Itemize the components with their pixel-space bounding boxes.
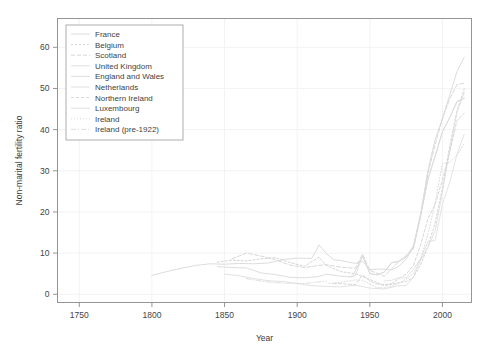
y-tick-label: 30 <box>40 166 50 176</box>
line-chart: 1750180018501900195020000102030405060Yea… <box>0 0 500 356</box>
y-tick-label: 0 <box>45 289 50 299</box>
legend-label-5[interactable]: England and Wales <box>95 72 164 81</box>
y-tick-label: 20 <box>40 207 50 217</box>
x-tick-label: 1750 <box>70 310 89 320</box>
legend-label-8[interactable]: Luxembourg <box>95 104 139 113</box>
y-tick-label: 60 <box>40 42 50 52</box>
x-tick-label: 2000 <box>433 310 452 320</box>
legend-label-10[interactable]: Ireland (pre-1922) <box>95 125 159 134</box>
x-tick-label: 1850 <box>215 310 234 320</box>
y-tick-label: 40 <box>40 125 50 135</box>
legend-label-3[interactable]: Scotland <box>95 51 126 60</box>
legend-label-9[interactable]: Ireland <box>95 115 119 124</box>
legend-label-1[interactable]: France <box>95 30 120 39</box>
legend[interactable]: FranceBelgiumScotlandUnited KingdomEngla… <box>66 25 183 140</box>
x-axis-title: Year <box>256 333 273 343</box>
legend-label-4[interactable]: United Kingdom <box>95 62 152 71</box>
y-tick-label: 10 <box>40 248 50 258</box>
legend-label-6[interactable]: Netherlands <box>95 83 138 92</box>
legend-label-2[interactable]: Belgium <box>95 41 124 50</box>
legend-label-7[interactable]: Northern Ireland <box>95 94 153 103</box>
x-tick-label: 1800 <box>142 310 161 320</box>
y-tick-label: 50 <box>40 83 50 93</box>
chart-root: 1750180018501900195020000102030405060Yea… <box>0 0 500 356</box>
x-tick-label: 1900 <box>288 310 307 320</box>
y-axis-title: Non-marital fertility ratio <box>14 115 24 205</box>
x-tick-label: 1950 <box>360 310 379 320</box>
